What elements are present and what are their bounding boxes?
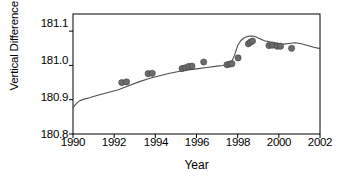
plot-svg [0,0,348,180]
y-axis-ticks [69,31,73,134]
data-point [249,38,255,44]
data-point [277,43,283,49]
data-point-group [119,38,295,86]
data-point [229,61,235,67]
plot-frame [73,14,320,134]
data-point [235,55,241,61]
data-point [201,59,207,65]
data-point [123,79,129,85]
data-point [189,63,195,69]
chart-figure: Vertical Difference (m) 181.1 181.0 180.… [0,0,348,180]
data-point [149,70,155,76]
data-point [288,45,294,51]
x-axis-ticks [73,134,320,138]
